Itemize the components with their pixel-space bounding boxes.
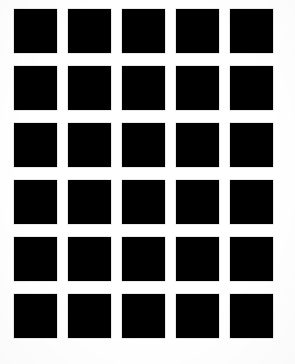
grid-square [68, 237, 111, 281]
grid-square [176, 294, 219, 338]
grid-square [68, 66, 111, 110]
grid-square [68, 180, 111, 224]
grid-square [68, 294, 111, 338]
square-grid [0, 0, 295, 364]
illusion-canvas [0, 0, 295, 364]
grid-square [122, 237, 165, 281]
grid-square [122, 123, 165, 167]
grid-square [230, 66, 273, 110]
grid-square [176, 237, 219, 281]
grid-square [122, 66, 165, 110]
grid-square [176, 66, 219, 110]
grid-square [176, 123, 219, 167]
grid-square [14, 123, 57, 167]
grid-square [230, 9, 273, 53]
grid-square [176, 180, 219, 224]
grid-square [14, 180, 57, 224]
grid-square [122, 180, 165, 224]
grid-square [230, 294, 273, 338]
grid-square [14, 237, 57, 281]
grid-square [230, 180, 273, 224]
grid-square [14, 66, 57, 110]
grid-square [230, 123, 273, 167]
grid-square [14, 9, 57, 53]
grid-square [122, 9, 165, 53]
grid-square [230, 237, 273, 281]
grid-square [122, 294, 165, 338]
grid-square [176, 9, 219, 53]
grid-square [14, 294, 57, 338]
grid-square [68, 123, 111, 167]
grid-square [68, 9, 111, 53]
